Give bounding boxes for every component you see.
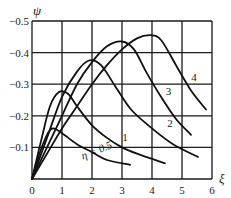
curve-label-1: 1 [122,131,128,143]
curve-label-0: η = 0.5 [79,138,114,161]
x-tick-label: 0 [29,184,35,196]
y-tick-label: −0.5 [9,15,29,27]
y-tick-label: −0.1 [9,141,29,153]
y-axis-ticks: −0.1−0.2−0.3−0.4−0.5 [9,15,29,153]
x-tick-label: 2 [89,184,95,196]
x-tick-label: 5 [179,184,185,196]
grid-lines [32,21,212,179]
y-tick-label: −0.2 [9,110,29,122]
x-tick-label: 6 [209,184,215,196]
x-tick-label: 4 [149,184,155,196]
x-tick-label: 3 [119,184,125,196]
curve-label-2: 2 [167,117,173,129]
x-axis-ticks: 0123456 [29,184,215,196]
y-axis-label: ψ [33,3,42,18]
curve-label-4: 4 [191,71,197,83]
y-tick-label: −0.3 [9,78,29,90]
line-chart: −0.1−0.2−0.3−0.4−0.5 0123456 ψ ξ η = 0.5… [0,0,231,198]
y-tick-label: −0.4 [9,47,29,59]
curve-label-3: 3 [166,85,172,97]
x-tick-label: 1 [59,184,65,196]
data-series [32,35,206,179]
x-axis-label: ξ [219,171,225,186]
